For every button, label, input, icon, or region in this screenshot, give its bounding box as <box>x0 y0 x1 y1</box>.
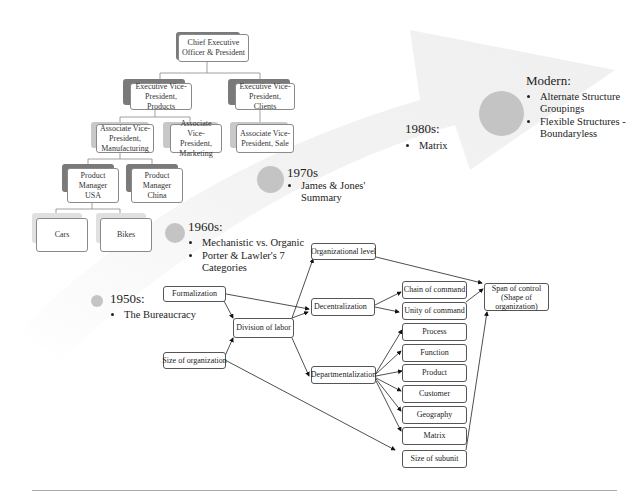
node-unity-of-command: Unity of command <box>402 302 467 320</box>
node-span-of-control: Span of control (Shape of organization) <box>484 283 549 311</box>
node-process: Process <box>402 323 467 341</box>
node-function: Function <box>402 344 467 362</box>
node-customer: Customer <box>402 385 467 403</box>
bottom-divider <box>32 490 617 491</box>
node-matrix: Matrix <box>402 427 467 445</box>
node-decentralization: Decentralization <box>311 298 375 316</box>
node-size-of-subunit: Size of subunit <box>402 450 467 468</box>
node-size-of-organization: Size of organization <box>163 352 226 369</box>
node-organizational-level: Organizational level <box>311 243 376 260</box>
node-geography: Geography <box>402 406 467 424</box>
node-product: Product <box>402 364 467 382</box>
node-departmentalization: Departmentalization <box>311 366 376 384</box>
node-formalization: Formalization <box>163 286 226 302</box>
node-chain-of-command: Chain of command <box>402 281 467 299</box>
node-division-of-labor: Division of labor <box>233 318 294 338</box>
